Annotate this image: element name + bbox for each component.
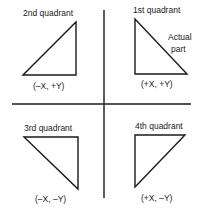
q4-triangle (135, 135, 185, 187)
q2-title: 2nd quadrant (23, 9, 73, 18)
q1-note-line2: part (171, 45, 186, 54)
q1-coords: (+X, +Y) (141, 80, 173, 89)
q3-title: 3rd quadrant (24, 124, 72, 133)
q2-coords: (–X, +Y) (33, 82, 64, 91)
q3-coords: (–X, –Y) (35, 195, 66, 204)
q2-triangle (23, 22, 76, 75)
q3-triangle (24, 137, 78, 189)
q4-title: 4th quadrant (135, 122, 183, 131)
q1-title: 1st quadrant (133, 6, 180, 15)
q4-coords: (+X, –Y) (141, 194, 172, 203)
q1-note-line1: Actual (168, 33, 192, 42)
